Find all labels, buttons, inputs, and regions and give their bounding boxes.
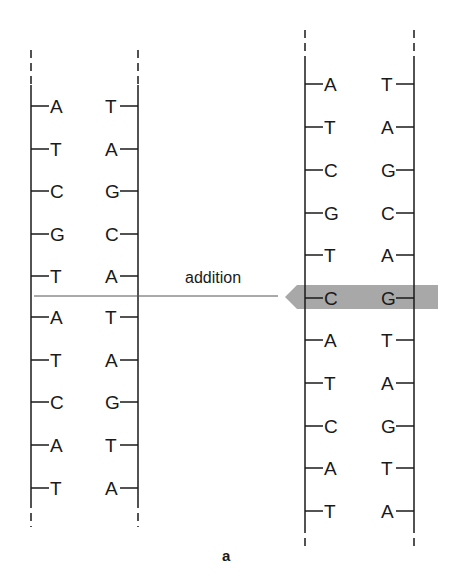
left-base-pairs: ATTACGGCTAATTACGATTA <box>31 96 138 499</box>
base-left: A <box>324 330 337 351</box>
right-base-pair-row: CG <box>305 160 414 181</box>
base-left: C <box>324 160 338 181</box>
base-left: C <box>324 416 338 437</box>
base-right: T <box>105 307 117 328</box>
base-right: A <box>381 373 394 394</box>
left-base-pair-row: AT <box>31 435 138 456</box>
right-base-pair-row: AT <box>305 330 414 351</box>
base-right: G <box>381 416 396 437</box>
highlight-arrow <box>285 285 438 309</box>
right-base-pair-row: CG <box>305 416 414 437</box>
right-base-pair-row: AT <box>305 74 414 95</box>
base-right: A <box>381 245 394 266</box>
left-base-pair-row: TA <box>31 350 138 371</box>
base-left: T <box>50 266 62 287</box>
base-right: G <box>105 181 120 202</box>
base-right: A <box>105 266 118 287</box>
base-right: T <box>381 330 393 351</box>
addition-label: addition <box>185 269 241 286</box>
base-right: A <box>105 139 118 160</box>
base-right: C <box>381 203 395 224</box>
base-left: A <box>324 74 337 95</box>
right-base-pair-row: TA <box>305 501 414 522</box>
base-left: T <box>50 350 62 371</box>
base-left: A <box>50 307 63 328</box>
base-right: C <box>105 224 119 245</box>
base-right: G <box>105 392 120 413</box>
base-left: T <box>324 373 336 394</box>
base-right: T <box>381 74 393 95</box>
left-base-pair-row: CG <box>31 181 138 202</box>
base-left: T <box>50 478 62 499</box>
base-right: A <box>381 117 394 138</box>
base-left: T <box>50 139 62 160</box>
base-right: T <box>105 96 117 117</box>
base-left: C <box>324 288 338 309</box>
left-base-pair-row: GC <box>31 224 138 245</box>
base-right: T <box>381 458 393 479</box>
base-right: A <box>105 350 118 371</box>
base-right: G <box>381 288 396 309</box>
left-base-pair-row: AT <box>31 96 138 117</box>
right-base-pair-row: AT <box>305 458 414 479</box>
base-left: G <box>324 203 339 224</box>
base-left: T <box>324 117 336 138</box>
base-right: G <box>381 160 396 181</box>
base-left: G <box>50 224 65 245</box>
base-right: A <box>105 478 118 499</box>
right-base-pair-row: TA <box>305 245 414 266</box>
figure-caption: a <box>222 547 231 564</box>
base-left: C <box>50 181 64 202</box>
left-base-pair-row: TA <box>31 478 138 499</box>
base-left: A <box>324 458 337 479</box>
base-left: A <box>50 435 63 456</box>
left-base-pair-row: TA <box>31 266 138 287</box>
left-base-pair-row: AT <box>31 307 138 328</box>
left-dna-ladder <box>31 50 138 527</box>
base-right: A <box>381 501 394 522</box>
base-left: T <box>324 501 336 522</box>
dna-addition-diagram: ATTACGGCTAATTACGATTA addition ATTACGGCTA… <box>0 0 461 581</box>
base-left: A <box>50 96 63 117</box>
right-base-pair-row: TA <box>305 117 414 138</box>
base-right: T <box>105 435 117 456</box>
left-base-pair-row: CG <box>31 392 138 413</box>
base-left: C <box>50 392 64 413</box>
base-left: T <box>324 245 336 266</box>
right-base-pair-row: TA <box>305 373 414 394</box>
right-base-pair-row: GC <box>305 203 414 224</box>
left-base-pair-row: TA <box>31 139 138 160</box>
